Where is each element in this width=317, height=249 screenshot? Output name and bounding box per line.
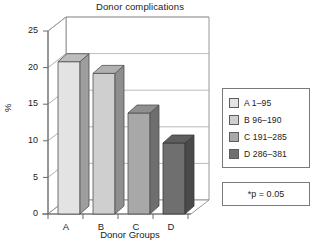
bar-a <box>58 54 89 214</box>
legend-item-c: C 191–285 <box>229 128 309 145</box>
y-tick-label-25: 25 <box>16 26 38 35</box>
legend-label-a: A 1–95 <box>244 98 271 108</box>
legend-label-d: D 286–381 <box>244 149 287 159</box>
p-value-box: *p = 0.05 <box>222 182 310 206</box>
y-tick-label-0: 0 <box>16 209 38 218</box>
legend: A 1–95 B 96–190 C 191–285 D 286–381 <box>222 88 310 168</box>
x-axis-ticks <box>48 214 188 219</box>
y-tick-label-10: 10 <box>16 136 38 145</box>
bar-c <box>128 105 159 214</box>
x-axis-title: Donor Groups <box>55 229 205 240</box>
bar-d <box>163 135 194 214</box>
legend-label-c: C 191–285 <box>244 132 287 142</box>
p-value-text: *p = 0.05 <box>248 189 284 199</box>
legend-swatch-a <box>229 98 239 108</box>
legend-swatch-b <box>229 115 239 125</box>
y-axis-ticks <box>43 31 48 214</box>
legend-label-b: B 96–190 <box>244 115 282 125</box>
legend-item-d: D 286–381 <box>229 145 309 162</box>
chart-figure: Donor complications <box>0 0 317 249</box>
legend-item-a: A 1–95 <box>229 94 309 111</box>
legend-swatch-d <box>229 149 239 159</box>
y-tick-label-5: 5 <box>16 173 38 182</box>
bar-b <box>93 65 124 214</box>
y-tick-label-15: 15 <box>16 99 38 108</box>
y-axis-title: % <box>2 104 13 112</box>
y-tick-label-20: 20 <box>16 63 38 72</box>
legend-item-b: B 96–190 <box>229 111 309 128</box>
legend-swatch-c <box>229 132 239 142</box>
